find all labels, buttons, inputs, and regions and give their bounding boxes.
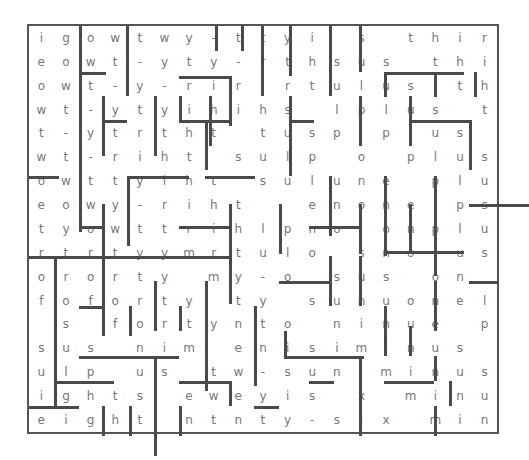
maze-cell: y bbox=[152, 241, 177, 265]
maze-wall bbox=[126, 26, 129, 96]
maze-cell: y bbox=[128, 241, 153, 265]
maze-wall bbox=[102, 256, 105, 336]
maze-cell: y bbox=[251, 384, 276, 408]
maze-cell: t bbox=[398, 26, 423, 50]
maze-cell: h bbox=[300, 50, 325, 74]
maze-cell: s bbox=[448, 336, 473, 360]
maze-cell: s bbox=[374, 50, 399, 74]
maze-wall bbox=[309, 381, 334, 384]
maze-cell: r bbox=[472, 26, 497, 50]
maze-cell: t bbox=[128, 26, 153, 50]
maze-wall bbox=[384, 251, 464, 254]
maze-cell: - bbox=[152, 74, 177, 98]
maze-wall bbox=[284, 356, 364, 359]
maze-wall bbox=[359, 26, 362, 72]
maze-cell: r bbox=[78, 241, 103, 265]
maze-wall bbox=[469, 204, 529, 207]
maze-cell: r bbox=[103, 265, 128, 289]
maze-cell: t bbox=[128, 217, 153, 241]
maze-cell: l bbox=[325, 98, 350, 122]
maze-wall bbox=[154, 356, 157, 456]
maze-wall bbox=[434, 72, 437, 97]
maze-cell: t bbox=[448, 74, 473, 98]
maze-cell: o bbox=[398, 289, 423, 313]
maze-cell: e bbox=[29, 408, 54, 432]
maze-cell: t bbox=[103, 241, 128, 265]
maze-cell: x bbox=[374, 408, 399, 432]
maze-cell: u bbox=[472, 384, 497, 408]
maze-wall bbox=[409, 326, 412, 356]
maze-wall bbox=[284, 331, 287, 356]
maze-wall bbox=[384, 306, 387, 356]
maze-cell: o bbox=[275, 313, 300, 337]
maze-cell: s bbox=[374, 265, 399, 289]
maze-cell: p bbox=[300, 145, 325, 169]
maze-wall bbox=[205, 176, 255, 179]
maze-cell: t bbox=[300, 74, 325, 98]
maze-wall bbox=[79, 72, 106, 75]
maze-cell: n bbox=[472, 408, 497, 432]
maze-wall bbox=[79, 356, 179, 359]
maze-wall bbox=[359, 204, 362, 254]
maze-cell: w bbox=[103, 26, 128, 50]
maze-cell: - bbox=[251, 265, 276, 289]
maze-wall bbox=[329, 256, 332, 306]
maze-cell: s bbox=[251, 169, 276, 193]
maze-cell: t bbox=[152, 217, 177, 241]
maze-cell: u bbox=[472, 217, 497, 241]
maze-cell: u bbox=[275, 169, 300, 193]
maze-cell: t bbox=[103, 50, 128, 74]
maze-cell bbox=[472, 122, 497, 146]
maze-wall bbox=[469, 281, 499, 284]
maze-cell: y bbox=[103, 193, 128, 217]
maze-cell: s bbox=[54, 313, 79, 337]
maze-cell: i bbox=[54, 408, 79, 432]
maze-cell: s bbox=[275, 98, 300, 122]
maze-cell: u bbox=[275, 122, 300, 146]
maze-row: sfortyntoninuep bbox=[29, 313, 497, 337]
maze-cell: t bbox=[177, 50, 202, 74]
maze-wall bbox=[54, 381, 114, 384]
maze-cell bbox=[448, 98, 473, 122]
maze-cell: i bbox=[177, 193, 202, 217]
maze-wall bbox=[434, 176, 437, 226]
maze-cell: t bbox=[177, 145, 202, 169]
maze-cell: r bbox=[275, 74, 300, 98]
maze-cell: h bbox=[448, 50, 473, 74]
maze-cell: u bbox=[472, 169, 497, 193]
maze-cell: g bbox=[78, 408, 103, 432]
maze-wall bbox=[205, 120, 208, 170]
maze-wall bbox=[434, 281, 437, 331]
maze-wall bbox=[409, 120, 469, 123]
maze-cell: t bbox=[54, 98, 79, 122]
maze-wall bbox=[309, 226, 359, 229]
maze-cell: n bbox=[226, 408, 251, 432]
maze-cell: o bbox=[349, 145, 374, 169]
maze-cell: i bbox=[275, 384, 300, 408]
maze-wall bbox=[229, 256, 232, 281]
maze-cell: m bbox=[177, 336, 202, 360]
maze-cell: n bbox=[226, 313, 251, 337]
maze-cell: n bbox=[448, 265, 473, 289]
maze-cell bbox=[226, 169, 251, 193]
maze-cell: e bbox=[226, 336, 251, 360]
maze-cell: w bbox=[152, 26, 177, 50]
maze-wall bbox=[434, 226, 437, 276]
maze-cell: t bbox=[103, 169, 128, 193]
maze-cell: s bbox=[472, 360, 497, 384]
maze-cell bbox=[374, 384, 399, 408]
maze-cell: t bbox=[103, 384, 128, 408]
maze-cell: o bbox=[29, 74, 54, 98]
maze-cell: h bbox=[177, 122, 202, 146]
maze-wall bbox=[254, 406, 279, 409]
maze-cell: l bbox=[349, 74, 374, 98]
maze-cell: t bbox=[472, 98, 497, 122]
maze-wall bbox=[359, 256, 362, 306]
maze-wall bbox=[279, 281, 329, 284]
maze-wall bbox=[179, 96, 182, 121]
maze-cell: e bbox=[29, 193, 54, 217]
maze-cell: s bbox=[325, 408, 350, 432]
maze-cell: o bbox=[78, 265, 103, 289]
maze-cell bbox=[29, 313, 54, 337]
maze-cell: h bbox=[177, 169, 202, 193]
